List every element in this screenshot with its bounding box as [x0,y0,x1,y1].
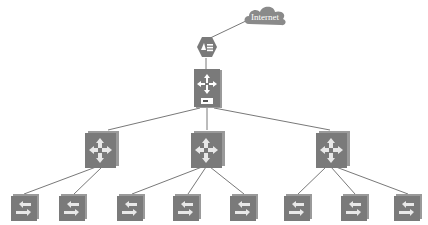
network-links [0,0,428,225]
access-switch-5[interactable] [229,193,259,221]
link-dist3-acc6 [298,167,326,194]
access-switch-icon [58,193,88,221]
access-switch-8[interactable] [393,193,423,221]
link-dist1-acc1 [24,167,96,194]
access-switch-icon [116,193,146,221]
link-core-dist1 [108,108,200,130]
switch-icon [315,130,351,168]
access-switch-icon [229,193,259,221]
access-switch-3[interactable] [116,193,146,221]
access-switch-7[interactable] [340,193,370,221]
link-dist3-acc8 [336,167,408,194]
distribution-switch-3[interactable] [315,130,351,168]
link-dist2-acc3 [132,167,202,194]
switch-icon [190,130,226,168]
internet-cloud: Internet [241,2,289,28]
distribution-switch-1[interactable] [84,130,120,168]
access-switch-icon [10,193,40,221]
access-switch-icon [340,193,370,221]
link-dist1-acc2 [74,167,102,194]
core-switch-icon [193,68,223,110]
core-switch-node[interactable] [193,68,223,110]
access-switch-icon [393,193,423,221]
access-switch-icon [283,193,313,221]
internet-label: Internet [241,12,289,22]
access-switch-2[interactable] [58,193,88,221]
switch-icon [84,130,120,168]
link-dist3-acc7 [331,167,355,194]
link-dist2-acc5 [210,167,244,194]
link-core-dist3 [214,108,330,130]
access-switch-1[interactable] [10,193,40,221]
firewall-icon [196,36,218,58]
access-switch-6[interactable] [283,193,313,221]
distribution-switch-2[interactable] [190,130,226,168]
firewall-node[interactable] [196,36,218,58]
access-switch-4[interactable] [172,193,202,221]
access-switch-icon [172,193,202,221]
